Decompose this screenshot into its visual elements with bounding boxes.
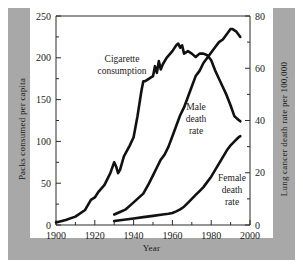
x-tick-label: 1920 <box>85 230 105 241</box>
series-annotation-male-death-rate: death <box>186 114 207 124</box>
x-axis-ticks <box>56 220 250 225</box>
series-annotation-male-death-rate: rate <box>189 126 203 136</box>
x-tick-label: 1960 <box>162 230 182 241</box>
x-tick-label: 1980 <box>201 230 221 241</box>
y-tick-label-left: 50 <box>41 178 51 189</box>
y-tick-label-right: 60 <box>255 63 265 74</box>
series-annotation-female-death-rate: Female <box>218 173 246 183</box>
data-curves-group <box>56 29 240 222</box>
x-axis-tick-labels: 190019201940196019802000 <box>46 230 260 241</box>
y-tick-label-left: 0 <box>46 220 51 231</box>
chart-svg: 050100150200250 020406080 19001920194019… <box>0 0 303 273</box>
x-tick-label: 1940 <box>124 230 144 241</box>
series-annotation-female-death-rate: death <box>222 185 243 195</box>
x-tick-label: 2000 <box>240 230 260 241</box>
y-tick-label-right: 20 <box>255 167 265 178</box>
series-annotation-cigarette-consumption: consumption <box>97 66 146 76</box>
series-annotation-male-death-rate: Male <box>186 102 206 112</box>
figure-container: Packs consumed per capita Lung cancer de… <box>0 0 303 273</box>
y-tick-label-left: 100 <box>36 136 51 147</box>
y-axis-tick-labels-right: 020406080 <box>255 11 265 231</box>
y-tick-label-left: 150 <box>36 94 51 105</box>
y-axis-tick-labels-left: 050100150200250 <box>36 11 51 231</box>
curve-cigarette-consumption <box>56 44 240 223</box>
y-tick-label-right: 0 <box>255 220 260 231</box>
series-annotation-female-death-rate: rate <box>225 197 239 207</box>
y-tick-label-left: 250 <box>36 11 51 22</box>
y-axis-ticks-left <box>56 16 61 225</box>
y-axis-ticks-right <box>245 16 250 225</box>
y-tick-label-right: 80 <box>255 11 265 22</box>
series-annotations-group: CigaretteconsumptionMaledeathrateFemaled… <box>97 54 246 207</box>
series-annotation-cigarette-consumption: Cigarette <box>105 54 140 64</box>
x-tick-label: 1900 <box>46 230 66 241</box>
y-tick-label-right: 40 <box>255 115 265 126</box>
y-tick-label-left: 200 <box>36 52 51 63</box>
